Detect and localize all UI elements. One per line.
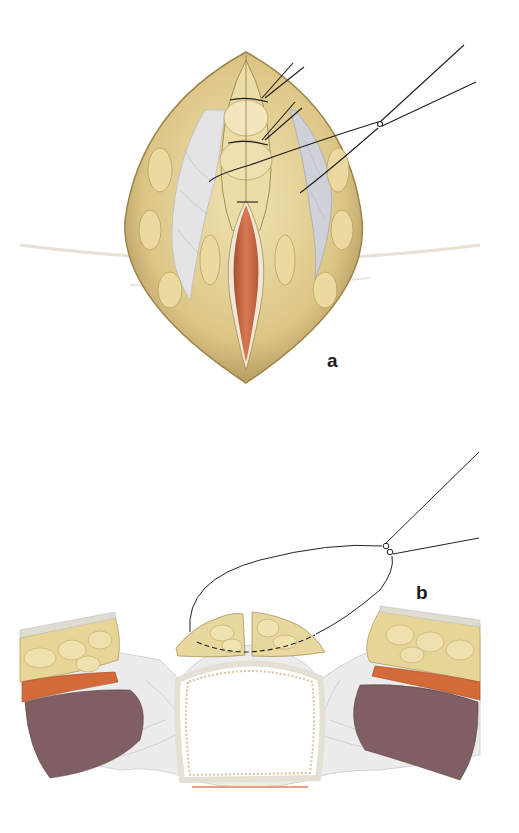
surface-wound-drawing bbox=[0, 0, 519, 420]
panel-b-illustration: b bbox=[0, 420, 519, 833]
panel-label-a: a bbox=[327, 350, 338, 372]
cross-section-drawing bbox=[0, 420, 519, 833]
panel-a-illustration: a bbox=[0, 0, 519, 420]
panel-label-b: b bbox=[416, 582, 428, 604]
